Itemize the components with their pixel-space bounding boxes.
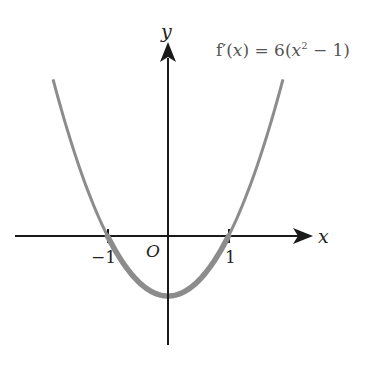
function-label: f′(x) = 6(x2 − 1) [216, 40, 350, 60]
tick-label-minus-1: −1 [91, 247, 116, 267]
tick-label-plus-1: 1 [225, 247, 236, 267]
origin-label: O [146, 241, 160, 261]
graph: y x O −1 1 f′(x) = 6(x2 − 1) [0, 0, 365, 367]
y-axis-label: y [160, 20, 172, 42]
x-axis-label: x [318, 225, 329, 247]
